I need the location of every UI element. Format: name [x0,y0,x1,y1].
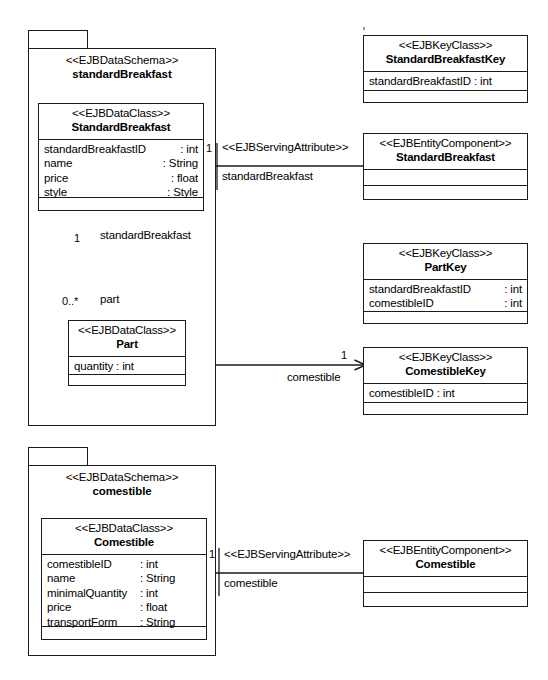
attribute-type: : Style [167,185,198,199]
class-operations-compartment [364,186,527,199]
class-stereotype: <<EJBDataClass>> [73,324,181,338]
class-operations-compartment [69,375,185,387]
multiplicity-composition-whole: 1 [74,233,80,244]
attribute-name: standardBreakfastID [44,142,146,156]
class-attributes-compartment [364,170,527,186]
attribute-name: standardBreakfastID [369,282,471,296]
attribute-name: standardBreakfastID : int [369,74,492,88]
class-operations-compartment [364,312,527,324]
attribute-row: comestibleID : int [369,386,522,400]
attribute-name: comestibleID : int [369,386,455,400]
class-attributes-compartment [364,577,527,593]
attribute-row: name : String [44,156,198,170]
class-name-compartment: <<EJBKeyClass>> PartKey [364,244,527,280]
class-name: StandardBreakfast [43,121,199,135]
uml-class-diagram: <<EJBDataSchema>> standardBreakfast <<EJ… [0,0,548,680]
attribute-type: : float [140,600,167,614]
class-stereotype: <<EJBDataClass>> [43,107,199,121]
class-name-compartment: <<EJBDataClass>> Part [69,321,185,357]
class-name: Comestible [368,558,523,572]
attribute-name: price [47,600,140,614]
class-attributes-compartment: comestibleID : int [364,384,527,403]
class-stereotype: <<EJBEntityComponent>> [368,544,523,558]
class-attributes-compartment: quantity : int [69,357,185,375]
role-label-serving-attribute-comestible: comestible [224,577,277,591]
package-tab [28,30,88,49]
class-attributes-compartment: standardBreakfastID : int name : String … [39,140,203,198]
attribute-row: price : float [44,171,198,185]
class-name-compartment: <<EJBEntityComponent>> Comestible [364,541,527,577]
class-name: Part [73,338,181,352]
class-attributes-compartment: standardBreakfastID : int [364,72,527,91]
class-comestible-entitycomponent[interactable]: <<EJBEntityComponent>> Comestible [363,540,528,607]
attribute-type: : int [180,142,198,156]
class-name: PartKey [368,261,523,275]
stereotype-label-serving-attribute-breakfast: <<EJBServingAttribute>> [222,141,348,155]
package-tab [28,447,88,466]
multiplicity-composition-part: 0..* [62,296,78,307]
class-partkey[interactable]: <<EJBKeyClass>> PartKey standardBreakfas… [363,243,528,324]
class-operations-compartment [364,91,527,103]
attribute-row: standardBreakfastID : int [369,74,522,88]
attribute-row: price: float [47,600,201,614]
role-label-composition-part: part [100,293,119,307]
attribute-row: comestibleID : int [369,296,522,310]
class-name-compartment: <<EJBEntityComponent>> StandardBreakfast [364,134,527,170]
role-label-part-comestible: comestible [287,371,340,385]
class-name-compartment: <<EJBDataClass>> StandardBreakfast [39,104,203,140]
attribute-type: : String [140,615,175,629]
class-name: ComestibleKey [368,365,523,379]
attribute-name: comestibleID [369,296,434,310]
multiplicity-serving-attribute-comestible: 1 [209,549,215,560]
attribute-row: name: String [47,571,201,585]
class-stereotype: <<EJBKeyClass>> [368,351,523,365]
class-name: Comestible [46,536,202,550]
attribute-type: : int [140,586,158,600]
class-stereotype: <<EJBDataClass>> [46,522,202,536]
attribute-row: standardBreakfastID : int [44,142,198,156]
role-label-serving-attribute-breakfast: standardBreakfast [222,170,313,184]
class-stereotype: <<EJBEntityComponent>> [368,137,523,151]
attribute-row: comestibleID: int [47,557,201,571]
class-name-compartment: <<EJBKeyClass>> ComestibleKey [364,348,527,384]
attribute-type: : String [140,571,175,585]
attribute-name: price [44,171,68,185]
class-operations-compartment [364,593,527,606]
attribute-name: transportForm [47,615,140,629]
multiplicity-part-comestible: 1 [341,350,347,361]
attribute-row: standardBreakfastID : int [369,282,522,296]
package-header-comestible: <<EJBDataSchema>> comestible [28,471,216,498]
attribute-name: name [44,156,72,170]
attribute-name: name [47,571,140,585]
class-standardbreakfastkey[interactable]: <<EJBKeyClass>> StandardBreakfastKey sta… [363,35,528,103]
class-standardbreakfast-dataclass[interactable]: <<EJBDataClass>> StandardBreakfast stand… [38,103,204,211]
package-stereotype: <<EJBDataSchema>> [28,54,216,68]
class-comestiblekey[interactable]: <<EJBKeyClass>> ComestibleKey comestible… [363,347,528,415]
package-stereotype: <<EJBDataSchema>> [28,471,216,485]
attribute-name: comestibleID [47,557,140,571]
class-stereotype: <<EJBKeyClass>> [368,247,523,261]
class-name: StandardBreakfastKey [368,53,523,67]
class-attributes-compartment: standardBreakfastID : int comestibleID :… [364,280,527,312]
attribute-type: : String [163,156,198,170]
edge-serving-attribute-breakfast [204,143,368,430]
class-standardbreakfast-entitycomponent[interactable]: <<EJBEntityComponent>> StandardBreakfast [363,133,528,200]
attribute-type: : int [504,282,522,296]
attribute-row: quantity : int [74,359,180,373]
package-header-standardbreakfast: <<EJBDataSchema>> standardBreakfast [28,54,216,81]
class-name: StandardBreakfast [368,151,523,165]
scan-artifact-speck [363,27,365,30]
attribute-type: : int [504,296,522,310]
attribute-row: minimalQuantity: int [47,586,201,600]
attribute-name: minimalQuantity [47,586,140,600]
attribute-type: : int [140,557,158,571]
attribute-name: style [44,185,67,199]
class-attributes-compartment: comestibleID: int name: String minimalQu… [42,555,206,627]
package-name: comestible [28,485,216,499]
attribute-name: quantity : int [74,359,134,373]
role-label-composition-whole: standardBreakfast [100,229,191,243]
class-comestible-dataclass[interactable]: <<EJBDataClass>> Comestible comestibleID… [41,518,207,640]
stereotype-label-serving-attribute-comestible: <<EJBServingAttribute>> [224,548,350,562]
class-part-dataclass[interactable]: <<EJBDataClass>> Part quantity : int [68,320,186,386]
multiplicity-serving-attribute-breakfast: 1 [206,143,212,154]
